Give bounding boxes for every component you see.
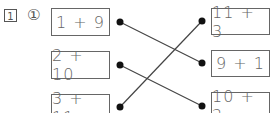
matching-lines [0,0,274,113]
match-line-3 [120,21,202,107]
left-dot-2[interactable] [117,62,124,69]
left-dot-1[interactable] [117,19,124,26]
right-dot-2[interactable] [199,60,206,67]
match-line-1 [120,22,202,63]
match-line-2 [120,65,202,106]
right-dot-1[interactable] [199,18,206,25]
right-dot-3[interactable] [199,103,206,110]
left-dot-3[interactable] [117,104,124,111]
